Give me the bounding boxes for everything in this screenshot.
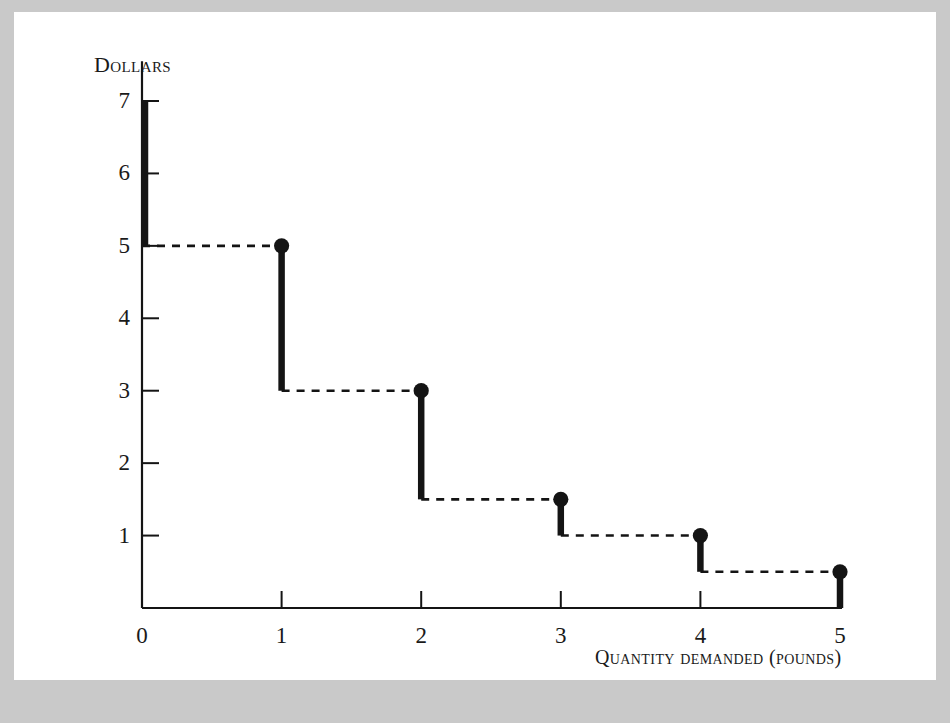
x-tick-label-5: 5 — [825, 624, 855, 647]
axes-layer — [142, 61, 842, 608]
data-point-marker-2 — [553, 492, 568, 507]
data-point-marker-4 — [832, 564, 847, 579]
y-tick-label-5: 5 — [104, 234, 130, 257]
y-tick-label-7: 7 — [104, 89, 130, 112]
y-tick-label-6: 6 — [104, 161, 130, 184]
step-demand-chart — [14, 12, 936, 680]
x-tick-label-4: 4 — [685, 624, 715, 647]
chart-panel: Dollars Quantity demanded (pounds) 12345… — [14, 12, 936, 680]
data-point-marker-3 — [693, 528, 708, 543]
y-tick-label-2: 2 — [104, 451, 130, 474]
data-point-marker-1 — [414, 383, 429, 398]
vertical-bars-layer — [145, 101, 840, 608]
figure-frame: Dollars Quantity demanded (pounds) 12345… — [0, 0, 950, 723]
y-tick-label-1: 1 — [104, 524, 130, 547]
x-tick-label-1: 1 — [267, 624, 297, 647]
y-tick-label-3: 3 — [104, 379, 130, 402]
step-connectors-layer — [142, 246, 840, 572]
x-tick-label-3: 3 — [546, 624, 576, 647]
x-tick-label-0: 0 — [127, 624, 157, 647]
data-point-marker-0 — [274, 238, 289, 253]
ticks-layer — [142, 101, 840, 608]
y-tick-label-4: 4 — [104, 306, 130, 329]
x-tick-label-2: 2 — [406, 624, 436, 647]
